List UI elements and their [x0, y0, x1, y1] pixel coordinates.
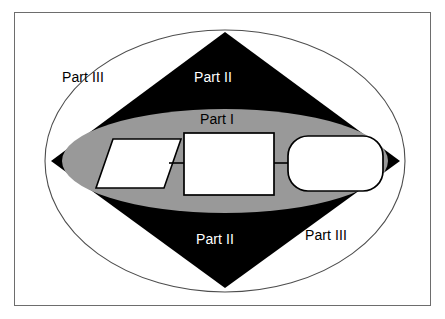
region-label-part-iii-bottom: Part III — [305, 228, 347, 242]
region-label-part-ii-bottom: Part II — [196, 232, 234, 246]
diagram-canvas: Part III Part II Part I Part II Part III — [0, 0, 445, 319]
terminator-node-rounded-rectangle[interactable] — [288, 136, 383, 191]
region-label-part-i: Part I — [200, 112, 234, 126]
process-node-rectangle[interactable] — [184, 133, 274, 195]
region-label-part-ii-top: Part II — [194, 70, 232, 84]
diagram-graphics — [0, 0, 445, 319]
region-label-part-iii-top: Part III — [62, 70, 104, 84]
